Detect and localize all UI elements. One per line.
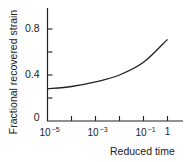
x-axis-label: Reduced time: [110, 145, 175, 157]
y-tick-label: 0.8: [10, 22, 40, 34]
y-tick-label: 0: [10, 111, 40, 123]
x-tick-label: 1: [165, 126, 171, 137]
y-tick-label: 0.4: [10, 68, 40, 80]
x-tick-label: 10−3: [87, 126, 107, 138]
x-tick-label: 10−1: [135, 126, 155, 138]
data-series-line: [48, 39, 168, 88]
x-tick-label: 10−5: [39, 126, 59, 138]
